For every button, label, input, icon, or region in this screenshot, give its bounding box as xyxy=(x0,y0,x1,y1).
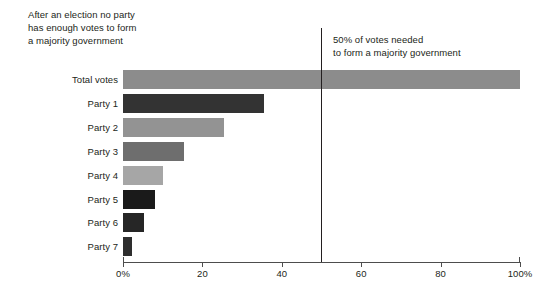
x-axis-tick xyxy=(361,262,362,267)
category-label-party-4: Party 4 xyxy=(0,166,118,185)
threshold-annotation-line-2: to form a majority government xyxy=(333,46,548,59)
category-label-party-6: Party 6 xyxy=(0,213,118,232)
category-label-party-7: Party 7 xyxy=(0,237,118,256)
bar-party-7 xyxy=(123,237,132,256)
x-tick-label-80: 80 xyxy=(435,268,446,279)
category-label-party-3: Party 3 xyxy=(0,142,118,161)
bar-party-1 xyxy=(123,94,264,113)
x-tick-label-0: 0% xyxy=(116,268,130,279)
x-tick-label-20: 20 xyxy=(197,268,208,279)
x-axis-tick xyxy=(202,262,203,267)
bar-party-3 xyxy=(123,142,184,161)
bar-party-2 xyxy=(123,118,224,137)
x-tick-label-40: 40 xyxy=(276,268,287,279)
caption-line-2: has enough votes to form xyxy=(28,21,268,34)
bar-party-5 xyxy=(123,190,155,209)
bar-party-4 xyxy=(123,166,163,185)
x-axis-tick xyxy=(282,262,283,267)
caption-line-3: a majority government xyxy=(28,34,268,47)
caption-line-1: After an election no party xyxy=(28,8,268,21)
bar-party-6 xyxy=(123,213,144,232)
majority-threshold-line xyxy=(321,28,322,262)
category-axis-labels: Total votes Party 1 Party 2 Party 3 Part… xyxy=(0,70,118,262)
category-label-party-2: Party 2 xyxy=(0,118,118,137)
x-tick-label-60: 60 xyxy=(356,268,367,279)
category-label-party-1: Party 1 xyxy=(0,94,118,113)
x-axis-tick xyxy=(123,262,124,267)
threshold-annotation-line-1: 50% of votes needed xyxy=(333,33,548,46)
bar-chart: After an election no party has enough vo… xyxy=(0,0,554,298)
chart-caption: After an election no party has enough vo… xyxy=(28,8,268,48)
category-label-party-5: Party 5 xyxy=(0,190,118,209)
x-axis-tick xyxy=(441,262,442,267)
x-axis-tick xyxy=(520,262,521,267)
category-label-total-votes: Total votes xyxy=(0,70,118,89)
x-tick-label-100: 100% xyxy=(508,268,533,279)
threshold-annotation: 50% of votes needed to form a majority g… xyxy=(333,33,548,59)
x-axis-line xyxy=(123,262,520,263)
